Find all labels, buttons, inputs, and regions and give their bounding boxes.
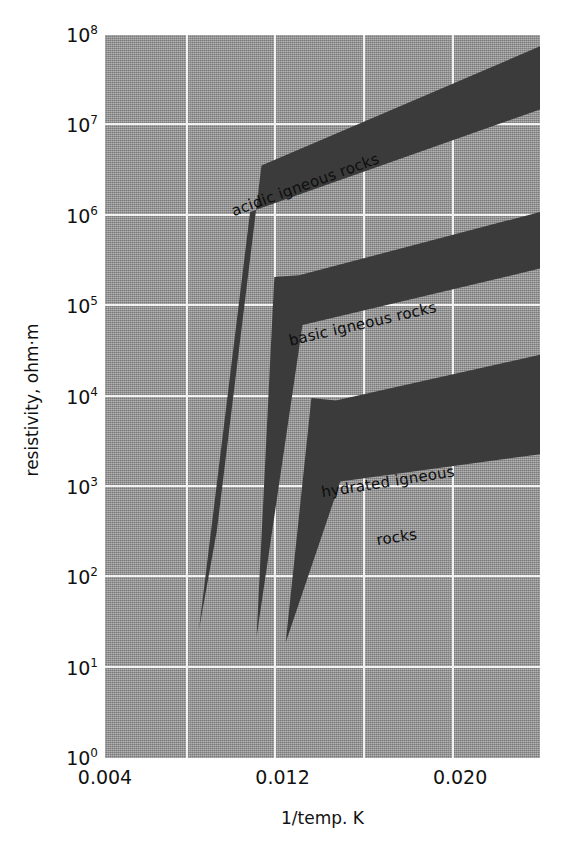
- x-tick-0-012: 0.012: [255, 768, 309, 787]
- band-acidic-igneous-rocks: [199, 46, 540, 630]
- y-axis-tick-labels: 108107106105104103102101100: [34, 35, 98, 758]
- y-axis-title: resistivity, ohm·m: [22, 280, 42, 520]
- y-tick-mantissa: 10: [66, 24, 90, 46]
- y-tick-10000: 104: [36, 387, 98, 406]
- y-tick-exponent: 2: [90, 565, 98, 579]
- y-tick-mantissa: 10: [66, 566, 90, 588]
- x-tick-0-02: 0.020: [433, 768, 487, 787]
- y-tick-10000000: 107: [36, 116, 98, 135]
- y-tick-mantissa: 10: [66, 295, 90, 317]
- y-tick-10: 101: [36, 658, 98, 677]
- y-tick-exponent: 1: [90, 656, 98, 670]
- y-tick-mantissa: 10: [66, 475, 90, 497]
- x-tick-0-004: 0.004: [78, 768, 132, 787]
- data-bands: [105, 35, 540, 758]
- y-tick-exponent: 3: [90, 475, 98, 489]
- x-axis-tick-labels: 0.0040.0120.020: [105, 768, 540, 796]
- figure: 108107106105104103102101100 resistivity,…: [0, 0, 566, 850]
- y-tick-exponent: 7: [90, 114, 98, 128]
- y-tick-mantissa: 10: [66, 114, 90, 136]
- y-tick-exponent: 8: [90, 23, 98, 37]
- y-tick-100: 102: [36, 568, 98, 587]
- y-tick-mantissa: 10: [66, 204, 90, 226]
- y-tick-1000: 103: [36, 477, 98, 496]
- y-tick-exponent: 4: [90, 385, 98, 399]
- x-axis-title: 1/temp. K: [105, 808, 540, 828]
- y-tick-mantissa: 10: [66, 385, 90, 407]
- band-hydrated-igneous-rocks: [286, 355, 540, 643]
- y-tick-100000000: 108: [36, 26, 98, 45]
- y-tick-1000000: 106: [36, 206, 98, 225]
- y-tick-1: 100: [36, 749, 98, 768]
- y-tick-mantissa: 10: [66, 656, 90, 678]
- y-tick-exponent: 0: [90, 746, 98, 760]
- y-tick-100000: 105: [36, 297, 98, 316]
- plot-area: acidic igneous rocks basic igneous rocks…: [105, 35, 540, 758]
- y-tick-exponent: 5: [90, 294, 98, 308]
- y-tick-exponent: 6: [90, 204, 98, 218]
